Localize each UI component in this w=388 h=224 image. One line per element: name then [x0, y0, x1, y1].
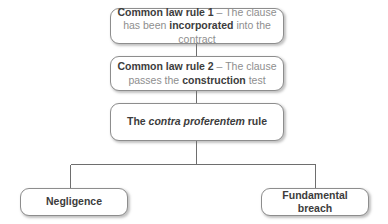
- node-fundamental-breach: Fundamental breach: [261, 188, 369, 216]
- node-common-law-rule-1-label: Common law rule 1 – The clause has been …: [111, 6, 283, 46]
- node-negligence: Negligence: [20, 188, 128, 216]
- flowchart-diagram: Common law rule 1 – The clause has been …: [0, 0, 388, 224]
- node-contra-proferentem-rule-label: The contra proferentem rule: [111, 115, 283, 128]
- node-contra-proferentem-rule: The contra proferentem rule: [110, 103, 284, 141]
- node-common-law-rule-1: Common law rule 1 – The clause has been …: [110, 8, 284, 44]
- node-fundamental-breach-label: Fundamental breach: [262, 189, 368, 216]
- node-common-law-rule-2: Common law rule 2 – The clause passes th…: [110, 56, 284, 91]
- node-common-law-rule-2-label: Common law rule 2 – The clause passes th…: [111, 60, 283, 87]
- node-negligence-label: Negligence: [21, 195, 127, 208]
